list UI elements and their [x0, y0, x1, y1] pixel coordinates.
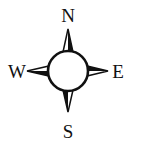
north-label: N [61, 5, 75, 26]
west-label: W [8, 61, 26, 82]
south-label: S [63, 121, 74, 142]
compass-ring-icon [48, 51, 88, 91]
east-point-icon [87, 66, 108, 76]
compass-rose: N S W E [0, 0, 144, 156]
south-point-icon [63, 90, 73, 112]
west-point-icon [27, 66, 49, 76]
north-point-icon [63, 29, 73, 52]
east-label: E [112, 61, 124, 82]
